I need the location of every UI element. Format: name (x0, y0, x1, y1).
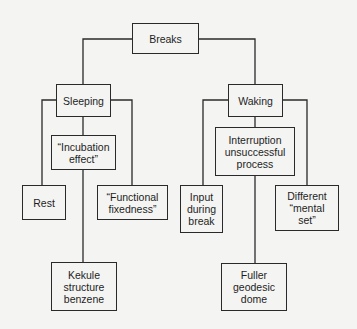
node-label: Sleeping (63, 95, 104, 107)
node-label: Fuller geodesic dome (233, 269, 275, 305)
node-functional-fixedness: “Functional fixedness” (97, 185, 168, 220)
node-label: Interruption unsuccessful process (225, 134, 286, 170)
node-label: Kekule structure benzene (64, 269, 105, 305)
node-input-during-break: Input during break (180, 185, 223, 233)
node-kekule-structure-benzene: Kekule structure benzene (51, 262, 117, 311)
node-label: Breaks (149, 33, 182, 45)
node-label: “Functional fixedness” (107, 191, 159, 215)
node-waking: Waking (228, 84, 283, 117)
node-label: Rest (33, 197, 55, 209)
node-breaks: Breaks (132, 23, 199, 54)
node-interruption-unsuccessful-process: Interruption unsuccessful process (215, 127, 295, 176)
node-incubation-effect: “Incubation effect” (51, 135, 116, 170)
node-rest: Rest (22, 185, 66, 220)
node-label: Different “mental set” (287, 190, 327, 226)
node-different-mental-set: Different “mental set” (275, 185, 339, 231)
node-label: Input during break (187, 191, 216, 227)
node-sleeping: Sleeping (56, 84, 111, 117)
node-label: “Incubation effect” (58, 141, 110, 165)
node-label: Waking (238, 95, 273, 107)
node-fuller-geodesic-dome: Fuller geodesic dome (221, 263, 287, 311)
